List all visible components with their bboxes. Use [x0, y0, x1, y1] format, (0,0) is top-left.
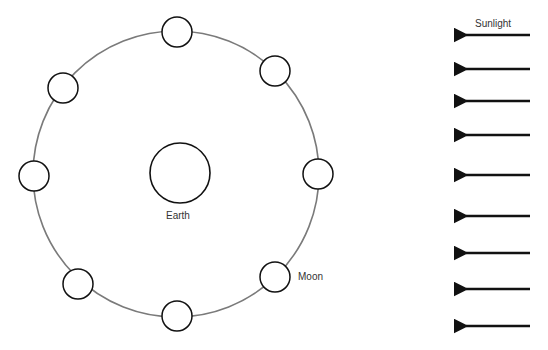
moon-position-2 [260, 56, 290, 86]
moon-position-1 [162, 17, 192, 47]
moon-position-7 [19, 161, 49, 191]
moon-position-5 [162, 301, 192, 331]
moon-position-4 [260, 262, 290, 292]
moon-position-6 [63, 269, 93, 299]
earth-circle [150, 143, 210, 203]
moon-position-3 [303, 159, 333, 189]
moon-position-8 [48, 73, 78, 103]
sunlight-label: Sunlight [475, 18, 511, 29]
moon-label: Moon [298, 271, 323, 282]
moon-phase-diagram [0, 0, 548, 350]
earth-label: Earth [166, 210, 190, 221]
